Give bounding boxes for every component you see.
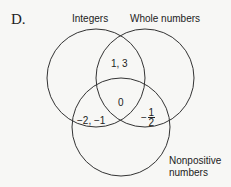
whole-numbers-label: Whole numbers (130, 13, 200, 24)
fraction-numerator: 1 (149, 108, 155, 117)
region-all-three: 0 (118, 97, 124, 108)
option-letter: D. (11, 11, 26, 28)
fraction-sign: − (141, 112, 147, 123)
region-whole-nonpositive: − 1 2 (141, 108, 155, 127)
nonpositive-label-line2: numbers (169, 167, 208, 178)
region-integers-whole: 1, 3 (111, 58, 128, 69)
fraction-denominator: 2 (149, 118, 155, 127)
region-integers-nonpositive: −2, −1 (77, 115, 105, 126)
integers-label: Integers (72, 13, 108, 24)
nonpositive-circle (72, 78, 170, 176)
nonpositive-label-line1: Nonpositive (169, 155, 221, 166)
